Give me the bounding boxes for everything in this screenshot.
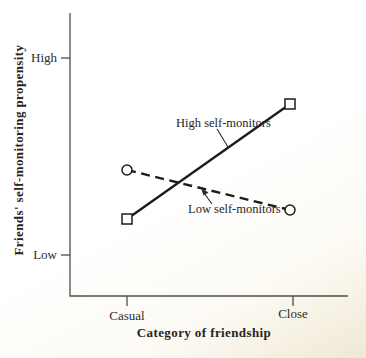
high-label-leader-line: [217, 129, 228, 147]
x-axis-title: Category of friendship: [137, 325, 271, 340]
self-monitoring-friendship-chart: High Low Casual Close High self-monitors…: [0, 0, 366, 358]
y-axis-title: Friends' self-monitoring propensity: [11, 44, 26, 255]
x-tick-label-casual: Casual: [109, 308, 145, 323]
low-self-monitors-label: Low self-monitors: [188, 202, 281, 216]
axes: [61, 13, 348, 306]
circle-marker-close: [285, 205, 295, 215]
square-marker-casual: [122, 214, 132, 224]
high-self-monitors-label: High self-monitors: [176, 116, 271, 130]
y-tick-label-low: Low: [33, 247, 57, 262]
y-tick-label-high: High: [31, 50, 58, 65]
square-marker-close: [285, 99, 295, 109]
circle-marker-casual: [122, 165, 132, 175]
x-tick-label-close: Close: [278, 306, 308, 321]
axis-lines: [70, 13, 348, 296]
